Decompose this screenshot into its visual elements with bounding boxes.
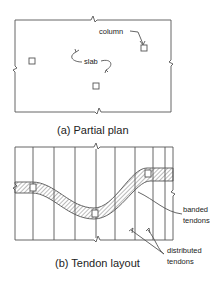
slab-leader-left (72, 49, 82, 62)
slab-leader-right (101, 60, 111, 73)
partial-plan-caption: (a) Partial plan (57, 124, 129, 136)
column-left (29, 58, 35, 64)
tendon-column-right (145, 170, 151, 177)
distributed-leader-2 (148, 230, 164, 254)
banded-label-line2: tendons (183, 216, 210, 225)
partial-plan: column slab (a) Partial plan (13, 16, 173, 136)
column-label: column (99, 27, 123, 36)
distributed-leader-1 (131, 230, 164, 254)
diagram-canvas: column slab (a) Partial plan ban (0, 0, 224, 282)
distributed-label-line2: tendons (167, 257, 194, 266)
distributed-label-line1: distributed (167, 246, 202, 255)
tendon-column-mid (92, 210, 98, 217)
column-top-right (141, 45, 147, 51)
slab-label: slab (84, 57, 98, 66)
tendon-layout: banded tendons distributed tendons (b) T… (13, 143, 210, 269)
tendon-layout-caption: (b) Tendon layout (55, 257, 140, 269)
column-bottom (93, 83, 99, 89)
tendon-column-left (30, 184, 36, 191)
banded-label-line1: banded (183, 205, 208, 214)
banded-leader (138, 192, 182, 214)
